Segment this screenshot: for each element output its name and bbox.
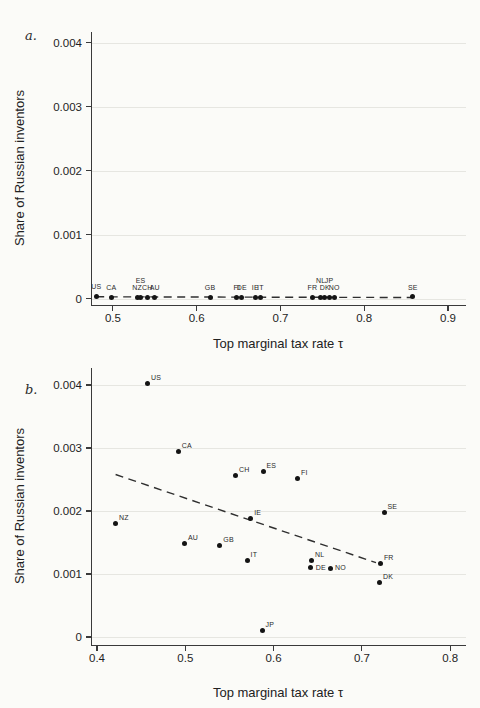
- data-point-label-CA: CA: [182, 442, 192, 450]
- data-point-label-FR: FR: [307, 284, 317, 292]
- data-point-GB: [208, 295, 213, 300]
- data-point-label-FR: FR: [384, 554, 394, 562]
- x-axis-tick: [450, 645, 451, 651]
- x-axis-tick-label: 0.7: [273, 312, 289, 324]
- data-point-NL: [309, 558, 314, 563]
- data-point-label-JP: JP: [266, 621, 275, 629]
- y-axis-tick-label: 0.004: [53, 37, 82, 49]
- y-axis-tick-label: 0.004: [53, 379, 82, 391]
- panel-label-b: b.: [25, 382, 37, 397]
- data-point-label-ES: ES: [267, 462, 277, 470]
- panel-label-a: a.: [25, 28, 37, 43]
- data-point-CH: [145, 295, 150, 300]
- y-axis-tick-label: 0.001: [53, 568, 82, 580]
- data-point-label-US: US: [151, 374, 161, 382]
- x-axis-tick: [96, 645, 97, 651]
- data-point-JP: [327, 295, 332, 300]
- x-axis-tick-label: 0.6: [266, 652, 282, 664]
- data-point-FR: [378, 561, 383, 566]
- x-axis-tick: [364, 305, 365, 311]
- data-point-label-FI: FI: [301, 469, 308, 477]
- data-point-label-NZ: NZ: [132, 284, 142, 292]
- scatter-panel-a: a. Share of Russian inventors 00.0010.00…: [0, 0, 480, 354]
- y-axis-title: Share of Russian inventors: [12, 428, 27, 584]
- x-axis-tick: [185, 645, 186, 651]
- data-point-FR: [310, 295, 315, 300]
- data-point-ES: [261, 469, 266, 474]
- data-point-label-NL: NL: [315, 551, 324, 559]
- data-point-GB: [217, 543, 222, 548]
- data-point-IT: [245, 558, 250, 563]
- data-point-label-AU: AU: [188, 534, 198, 542]
- x-axis-tick-label: 0.8: [356, 312, 372, 324]
- data-point-US: [145, 381, 150, 386]
- data-point-label-NZ: NZ: [119, 514, 129, 522]
- x-axis-tick-label: 0.4: [89, 652, 105, 664]
- x-axis-tick: [273, 645, 274, 651]
- data-point-label-IT: IT: [257, 284, 264, 292]
- y-axis-tick-label: 0.002: [53, 165, 82, 177]
- x-axis-tick-label: 0.8: [442, 652, 458, 664]
- y-axis-tick-label: 0.003: [53, 442, 82, 454]
- scatter-panel-b: b. Share of Russian inventors 00.0010.00…: [0, 354, 480, 708]
- data-point-label-NO: NO: [335, 564, 346, 572]
- y-axis-tick-label: 0: [76, 631, 82, 643]
- data-point-ES: [138, 295, 143, 300]
- data-point-label-DE: DE: [237, 284, 247, 292]
- data-point-label-US: US: [91, 283, 101, 291]
- data-point-label-AU: AU: [150, 284, 160, 292]
- data-point-JP: [260, 628, 265, 633]
- x-axis-tick: [361, 645, 362, 651]
- data-point-label-SE: SE: [408, 284, 418, 292]
- x-axis-tick-label: 0.7: [354, 652, 370, 664]
- plot-area: 00.0010.0020.0030.0040.40.50.60.70.8USCA…: [91, 368, 466, 646]
- data-point-label-DE: DE: [316, 564, 326, 572]
- x-axis-tick: [196, 305, 197, 311]
- data-point-NO: [332, 295, 337, 300]
- data-point-NO: [328, 566, 333, 571]
- data-point-label-GB: GB: [205, 284, 216, 292]
- x-axis-tick-label: 0.6: [189, 312, 205, 324]
- data-point-label-IT: IT: [251, 551, 258, 559]
- x-axis-tick: [280, 305, 281, 311]
- trend-line: [92, 32, 466, 305]
- data-point-CA: [109, 295, 114, 300]
- x-axis-title: Top marginal tax rate τ: [213, 685, 343, 700]
- data-point-CA: [176, 449, 181, 454]
- y-axis-title: Share of Russian inventors: [12, 90, 27, 246]
- y-axis-tick-label: 0.002: [53, 505, 82, 517]
- data-point-label-CH: CH: [239, 466, 250, 474]
- x-axis-tick: [447, 305, 448, 311]
- data-point-label-CA: CA: [106, 284, 116, 292]
- y-axis-tick-label: 0: [76, 293, 82, 305]
- x-axis-tick-label: 0.5: [105, 312, 121, 324]
- data-point-IT: [258, 295, 263, 300]
- data-point-label-DK: DK: [383, 573, 393, 581]
- data-point-label-GB: GB: [223, 536, 234, 544]
- trend-line: [92, 368, 466, 645]
- plot-area: 00.0010.0020.0030.0040.50.60.70.80.9USCA…: [91, 32, 466, 306]
- x-axis-tick-label: 0.5: [177, 652, 193, 664]
- data-point-SE: [382, 510, 387, 515]
- x-axis-tick-label: 0.9: [440, 312, 456, 324]
- data-point-label-IE: IE: [254, 509, 261, 517]
- x-axis-tick: [112, 305, 113, 311]
- y-axis-tick-label: 0.001: [53, 229, 82, 241]
- x-axis-title: Top marginal tax rate τ: [213, 336, 343, 351]
- data-point-US: [94, 294, 99, 299]
- data-point-label-NO: NO: [329, 284, 340, 292]
- data-point-label-SE: SE: [388, 503, 398, 511]
- y-axis-tick-label: 0.003: [53, 101, 82, 113]
